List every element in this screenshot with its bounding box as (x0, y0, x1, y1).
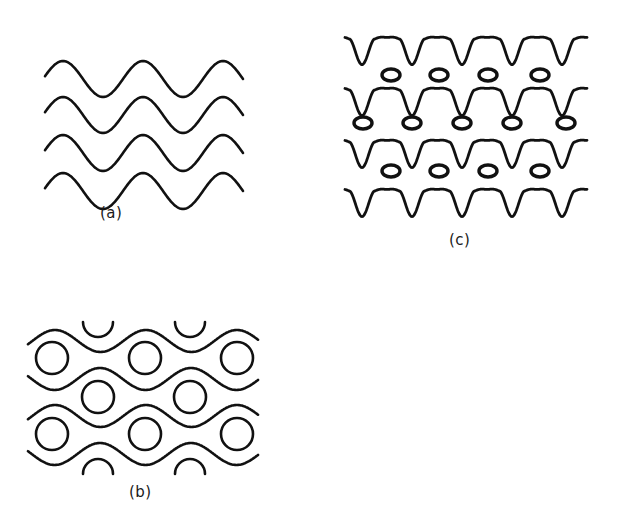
ellipse (382, 165, 400, 177)
ellipse (430, 165, 448, 177)
ellipse (531, 69, 549, 81)
ellipse (479, 165, 497, 177)
ellipse (557, 117, 575, 129)
ellipse (479, 69, 497, 81)
ellipse (354, 117, 372, 129)
ellipse (430, 69, 448, 81)
ellipse (453, 117, 471, 129)
ellipse (403, 117, 421, 129)
panel-a-label: (a) (100, 204, 122, 222)
ellipse (382, 69, 400, 81)
panel-b-label: (b) (129, 483, 152, 501)
panel-c-label: (c) (449, 231, 470, 249)
panel-c-lattice (0, 0, 622, 522)
spiky-wave-line (345, 189, 587, 217)
figure-canvas: (a) (b) (c) (0, 0, 622, 522)
spiky-wave-line (345, 88, 587, 115)
spiky-wave-line (345, 37, 587, 64)
ellipse (531, 165, 549, 177)
spiky-wave-line (345, 140, 587, 168)
ellipse (503, 117, 521, 129)
